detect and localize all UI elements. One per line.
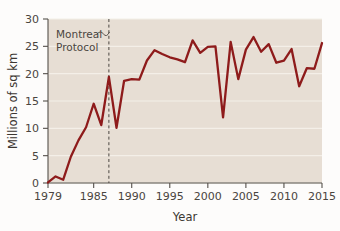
y-tick-label: 10 [25,122,39,135]
x-axis-title: Year [172,210,198,224]
montreal-protocol-label-line2: Protocol [56,41,98,53]
y-tick-label: 30 [25,13,39,26]
y-tick-label: 25 [25,40,39,53]
x-tick-label: 1979 [34,190,62,203]
y-tick-labels: 0 5 10 15 20 25 30 [25,13,39,190]
chart-figure: 0 5 10 15 20 25 30 1979 1985 1990 1995 2… [0,0,340,231]
x-tick-label: 2015 [308,190,336,203]
x-axis [48,183,322,188]
x-tick-labels: 1979 1985 1990 1995 2000 2005 2010 2015 [34,190,336,203]
y-axis [43,19,48,183]
x-tick-label: 2005 [232,190,260,203]
x-tick-label: 1985 [80,190,108,203]
x-tick-label: 1995 [156,190,184,203]
montreal-protocol-label-line1: Montreal [56,28,102,40]
x-tick-label: 2010 [270,190,298,203]
y-tick-label: 0 [32,177,39,190]
y-tick-label: 15 [25,95,39,108]
ozone-hole-line-chart: 0 5 10 15 20 25 30 1979 1985 1990 1995 2… [0,0,340,231]
y-tick-label: 5 [32,150,39,163]
y-tick-label: 20 [25,68,39,81]
y-axis-title: Millions of sq km [6,53,20,149]
x-tick-label: 2000 [194,190,222,203]
x-tick-label: 1990 [118,190,146,203]
